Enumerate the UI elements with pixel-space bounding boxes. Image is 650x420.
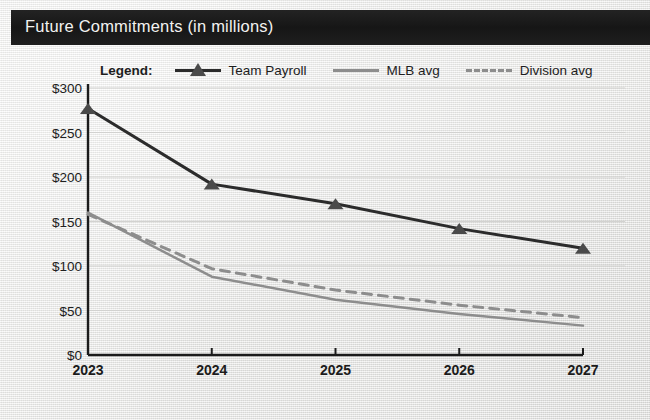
- x-axis-tick-label: 2023: [72, 362, 103, 378]
- chart-plot-area: $0$50$100$150$200$250$300 20232024202520…: [0, 0, 650, 420]
- chart-canvas: [0, 0, 650, 420]
- chart-screenshot: Future Commitments (in millions) Legend:…: [0, 0, 650, 420]
- x-axis-tick-label: 2024: [196, 362, 227, 378]
- x-axis-tick-label: 2026: [444, 362, 475, 378]
- x-axis-tick-label: 2025: [320, 362, 351, 378]
- series-line-team-payroll: [88, 108, 583, 248]
- data-point-marker[interactable]: [80, 103, 96, 114]
- x-axis-tick-label: 2027: [567, 362, 598, 378]
